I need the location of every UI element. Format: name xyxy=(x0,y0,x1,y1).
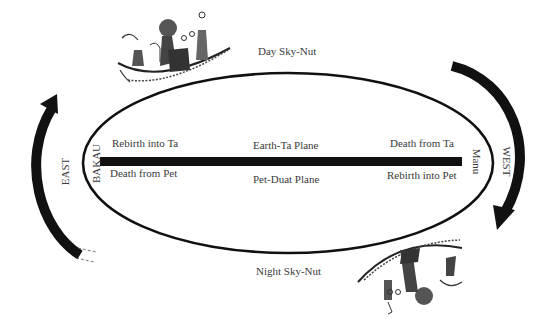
bakau-horizon-label: BAKAU xyxy=(91,144,102,184)
plane-divider-bar xyxy=(100,157,462,166)
rebirth-into-pet-label: Rebirth into Pet xyxy=(387,170,457,181)
pet-duat-plane-label: Pet-Duat Plane xyxy=(253,174,319,185)
earth-ta-plane-label: Earth-Ta Plane xyxy=(253,140,319,151)
rebirth-into-ta-label: Rebirth into Ta xyxy=(112,138,178,149)
manu-horizon-label: Manu xyxy=(471,146,482,178)
solar-barque-icon xyxy=(118,12,230,82)
diagram-canvas: Day Sky-Nut Night Sky-Nut Earth-Ta Plane… xyxy=(0,0,551,324)
west-direction-label: WEST xyxy=(501,147,512,177)
inverted-solar-barque-icon xyxy=(358,240,462,314)
east-direction-label: EAST xyxy=(60,157,71,187)
day-sky-nut-label: Day Sky-Nut xyxy=(258,46,316,57)
night-sky-nut-label: Night Sky-Nut xyxy=(256,266,321,277)
death-from-pet-label: Death from Pet xyxy=(110,168,177,179)
death-from-ta-label: Death from Ta xyxy=(390,138,454,149)
